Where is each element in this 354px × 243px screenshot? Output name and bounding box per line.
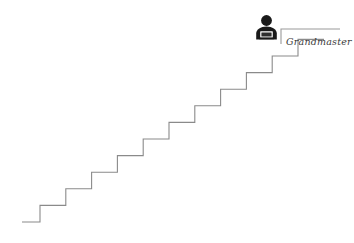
illustration-canvas: Grandmaster bbox=[0, 0, 354, 243]
laptop-base-icon bbox=[259, 38, 274, 40]
grandmaster-label: Grandmaster bbox=[286, 36, 353, 47]
staircase-illustration: Grandmaster bbox=[0, 0, 354, 243]
person-head-icon bbox=[261, 15, 272, 26]
laptop-keyboard-icon bbox=[261, 32, 271, 36]
